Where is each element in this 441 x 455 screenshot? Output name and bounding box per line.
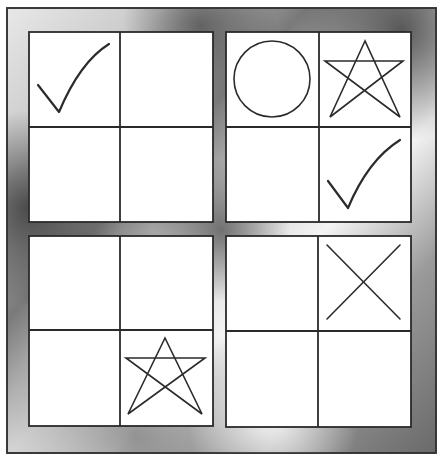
panel-top-right: [226, 32, 411, 222]
panel-bottom-left-bg: [29, 236, 213, 426]
panel-bottom-left: [29, 236, 213, 426]
puzzle-svg: [0, 0, 441, 455]
panel-bottom-right: [226, 236, 411, 427]
puzzle-figure: [0, 0, 441, 455]
panel-top-left: [29, 32, 213, 222]
